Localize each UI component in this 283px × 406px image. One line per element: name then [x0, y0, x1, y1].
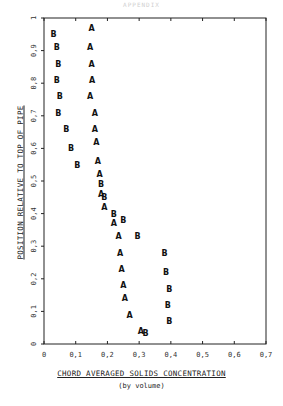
marker-a: A — [88, 24, 95, 33]
y-tick-label: 0,7 — [30, 109, 38, 122]
y-tick-label: 0,5 — [30, 175, 38, 188]
marker-a: A — [101, 203, 108, 212]
marker-b: B — [163, 268, 169, 277]
y-tick-label: 1 — [30, 16, 38, 20]
x-tick-label: 0,5 — [196, 351, 209, 359]
marker-a: A — [117, 249, 124, 258]
x-tick-label: 0,1 — [69, 351, 82, 359]
marker-a: A — [88, 60, 95, 69]
marker-b: B — [98, 180, 104, 189]
marker-b: B — [166, 317, 172, 326]
marker-b: B — [54, 43, 60, 52]
marker-a: A — [111, 219, 118, 228]
x-tick-label: 0,7 — [260, 351, 273, 359]
x-tick-label: 0 — [42, 351, 46, 359]
x-tick-label: 0,6 — [228, 351, 241, 359]
x-axis-label: CHORD AVERAGED SOLIDS CONCENTRATION — [0, 369, 283, 378]
y-tick-label: 0,4 — [30, 207, 38, 220]
marker-a: A — [87, 92, 94, 101]
marker-b: B — [142, 329, 148, 338]
marker-b: B — [120, 216, 126, 225]
plot-frame — [44, 18, 266, 344]
marker-b: B — [74, 161, 80, 170]
marker-a: A — [95, 157, 102, 166]
marker-a: A — [93, 138, 100, 147]
x-tick-label: 0,2 — [101, 351, 114, 359]
marker-b: B — [68, 144, 74, 153]
y-axis-label: POSITION RELATIVE TO TOP OF PIPE — [16, 83, 25, 283]
marker-b: B — [63, 125, 69, 134]
y-tick-label: 0 — [30, 342, 38, 346]
y-tick-label: 0,2 — [30, 272, 38, 285]
marker-b: B — [135, 232, 141, 241]
y-tick-label: 0,9 — [30, 44, 38, 57]
marker-b: B — [55, 109, 61, 118]
y-tick-label: 0,8 — [30, 77, 38, 90]
marker-a: A — [92, 109, 99, 118]
marker-b: B — [55, 60, 61, 69]
marker-b: B — [166, 285, 172, 294]
x-axis-sublabel: (by volume) — [0, 382, 283, 390]
x-tick-label: 0,4 — [165, 351, 178, 359]
marker-b: B — [57, 92, 63, 101]
marker-a: A — [115, 232, 122, 241]
y-tick-label: 0,3 — [30, 240, 38, 253]
marker-a: A — [127, 311, 134, 320]
marker-a: A — [119, 265, 126, 274]
y-tick-label: 0,6 — [30, 142, 38, 155]
marker-a: A — [96, 170, 103, 179]
data-points: AAAAAAAAAAAAAAAAAAAABBBBBBBBBBBBBBBBBBBB — [50, 24, 172, 338]
marker-b: B — [111, 210, 117, 219]
x-tick-label: 0,3 — [133, 351, 146, 359]
marker-b: B — [50, 30, 56, 39]
scatter-plot: 00,10,20,30,40,50,60,700,10,20,30,40,50,… — [0, 0, 283, 406]
marker-a: A — [89, 76, 96, 85]
marker-b: B — [101, 193, 107, 202]
marker-a: A — [122, 294, 129, 303]
marker-a: A — [92, 125, 99, 134]
marker-b: B — [165, 301, 171, 310]
marker-b: B — [161, 249, 167, 258]
y-tick-label: 0,1 — [30, 305, 38, 318]
marker-a: A — [87, 43, 94, 52]
marker-b: B — [54, 76, 60, 85]
marker-a: A — [120, 281, 127, 290]
axis-ticks: 00,10,20,30,40,50,60,700,10,20,30,40,50,… — [30, 16, 272, 359]
